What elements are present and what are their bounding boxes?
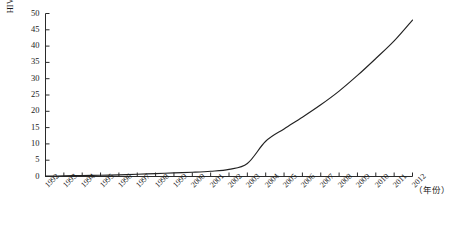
y-tick-label: 10	[22, 139, 40, 148]
chart-container: HIV/AIDS检出感染率（十万分之一） 0510152025303540455…	[0, 0, 451, 225]
y-tick-label: 0	[22, 172, 40, 181]
chart-svg	[0, 0, 451, 225]
series-group	[46, 20, 413, 176]
y-tick-label: 45	[22, 25, 40, 34]
y-tick-label: 50	[22, 9, 40, 18]
data-series-line	[46, 20, 413, 176]
y-tick-label: 30	[22, 74, 40, 83]
x-axis-title: （年份）	[414, 185, 450, 195]
y-tick-label: 40	[22, 41, 40, 50]
x-ticks-group	[46, 173, 413, 177]
y-ticks-group	[46, 14, 50, 177]
axes-group	[46, 14, 413, 177]
y-tick-label: 5	[22, 155, 40, 164]
y-tick-label: 20	[22, 106, 40, 115]
plot-area: 05101520253035404550 1992199319941995199…	[0, 0, 451, 225]
y-tick-label: 35	[22, 57, 40, 66]
y-tick-label: 15	[22, 123, 40, 132]
y-tick-label: 25	[22, 90, 40, 99]
